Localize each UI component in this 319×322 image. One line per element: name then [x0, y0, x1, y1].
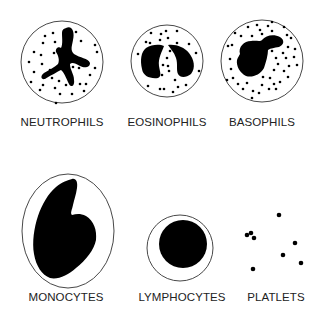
eosinophil-nucleus-right	[168, 45, 194, 77]
eosinophil-cell	[131, 25, 203, 97]
label-lymphocytes: LYMPHOCYTES	[138, 291, 225, 303]
monocyte-cell	[22, 174, 114, 288]
eosinophil-nucleus-left	[141, 45, 164, 79]
label-eosinophils: EOSINOPHILS	[127, 116, 206, 128]
neutrophil-cell	[21, 21, 103, 104]
basophil-nucleus	[237, 35, 283, 76]
label-platlets: PLATLETS	[247, 291, 304, 303]
lymphocyte-nucleus	[159, 220, 207, 268]
label-monocytes: MONOCYTES	[28, 291, 103, 303]
label-basophils: BASOPHILS	[229, 116, 295, 128]
neutrophil-nucleus	[41, 27, 90, 86]
basophil-cell	[221, 20, 303, 102]
lymphocyte-cell	[147, 215, 213, 281]
monocyte-nucleus	[33, 179, 96, 279]
platelets	[245, 213, 304, 272]
blood-cells-diagram	[0, 0, 319, 322]
label-neutrophils: NEUTROPHILS	[21, 116, 104, 128]
